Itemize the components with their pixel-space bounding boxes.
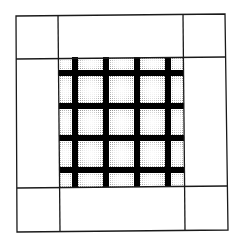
halftone-cell: [109, 141, 134, 167]
horizontal-bar: [59, 135, 184, 141]
halftone-cell: [59, 76, 72, 103]
halftone-cell: [140, 141, 165, 167]
halftone-cell: [171, 109, 184, 135]
halftone-cell: [171, 76, 184, 103]
horizontal-bar: [59, 70, 184, 76]
halftone-cell: [109, 57, 134, 70]
halftone-cell: [59, 109, 72, 135]
halftone-cell: [109, 173, 134, 187]
halftone-cell: [78, 173, 103, 187]
halftone-cell: [140, 109, 165, 135]
halftone-cell: [109, 76, 134, 103]
halftone-cell: [140, 76, 165, 103]
halftone-cell: [78, 76, 103, 103]
halftone-cell: [171, 141, 184, 167]
halftone-cell: [140, 173, 165, 187]
grid-illusion-diagram: [0, 0, 238, 242]
halftone-cell: [78, 109, 103, 135]
halftone-cell: [171, 173, 184, 187]
halftone-cell: [109, 109, 134, 135]
halftone-cell: [140, 57, 165, 70]
horizontal-bar: [59, 167, 184, 173]
horizontal-bar: [59, 103, 184, 109]
halftone-cell: [78, 141, 103, 167]
center-halftone-square: [59, 57, 184, 187]
halftone-cell: [59, 173, 72, 187]
halftone-cell: [171, 57, 184, 70]
halftone-cell: [59, 141, 72, 167]
